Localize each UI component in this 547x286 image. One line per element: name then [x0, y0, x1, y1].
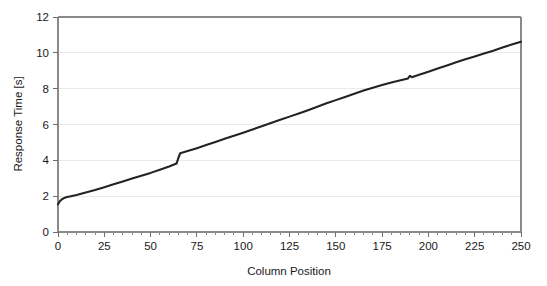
x-tick-label: 175 [373, 240, 392, 252]
x-tick-label: 100 [234, 240, 253, 252]
chart-figure: 0255075100125150175200225250 024681012 C… [0, 0, 547, 286]
x-tick-label: 50 [144, 240, 157, 252]
x-tick-label: 125 [280, 240, 299, 252]
y-tick-label: 8 [43, 83, 49, 95]
y-tick-label: 12 [36, 11, 49, 23]
x-tick-label: 25 [98, 240, 111, 252]
y-tick-label: 4 [43, 154, 50, 166]
x-tick-label: 75 [191, 240, 204, 252]
x-tick-label: 250 [511, 240, 530, 252]
x-tick-label: 0 [55, 240, 61, 252]
x-tick-label: 200 [419, 240, 438, 252]
y-tick-label: 0 [43, 226, 49, 238]
y-axis-title: Response Time [s] [12, 76, 24, 171]
x-tick-label: 150 [326, 240, 345, 252]
y-tick-label: 10 [36, 47, 49, 59]
x-axis-title: Column Position [247, 265, 331, 277]
y-tick-label: 6 [43, 119, 49, 131]
x-tick-label: 225 [465, 240, 484, 252]
chart-canvas: 0255075100125150175200225250 024681012 C… [0, 0, 547, 286]
y-tick-label: 2 [43, 190, 49, 202]
